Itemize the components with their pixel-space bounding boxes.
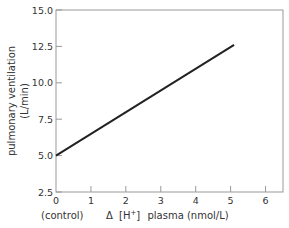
x-axis-ticks: 0123456 (53, 186, 269, 206)
x-tick-label: 0 (53, 195, 59, 206)
x-axis-label: Δ [H+] plasma (nmol/L) (106, 209, 229, 221)
y-tick-label: 15.0 (32, 5, 53, 16)
y-tick-label: 7.5 (38, 114, 53, 125)
delta-symbol: Δ (106, 210, 113, 221)
x-tick-label: 1 (88, 195, 94, 206)
plot-frame (56, 10, 283, 192)
x-tick-label: 6 (263, 195, 269, 206)
x-tick-label: 4 (193, 195, 199, 206)
y-tick-label: 10.0 (32, 77, 53, 88)
x-zero-annotation: (control) (41, 210, 84, 221)
y-axis-label: pulmonary ventilation (6, 46, 17, 156)
x-tick-label: 5 (228, 195, 234, 206)
y-tick-label: 5.0 (38, 150, 53, 161)
y-tick-label: 12.5 (32, 41, 53, 52)
y-axis-ticks: 2.55.07.510.012.515.0 (32, 5, 62, 198)
chart: 2.55.07.510.012.515.0 0123456 pulmonary … (0, 0, 289, 228)
x-tick-label: 3 (158, 195, 164, 206)
y-axis-unit: (L/min) (19, 83, 30, 119)
ventilation-line (56, 45, 234, 156)
y-tick-label: 2.5 (38, 187, 53, 198)
x-tick-label: 2 (123, 195, 129, 206)
